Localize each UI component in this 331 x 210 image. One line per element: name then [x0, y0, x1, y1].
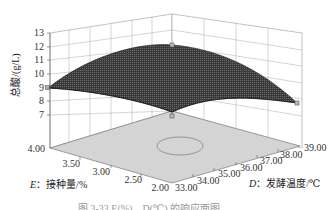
- z-tick: 9: [39, 82, 44, 93]
- z-axis-title: 总酸/(g/L): [9, 53, 22, 96]
- z-tick: 11: [34, 54, 44, 65]
- response-surface-chart: 13 12 11 10 9 8 7 总酸/(g/L) 4.00 3.50 3.0…: [0, 0, 331, 210]
- z-tick: 8: [39, 95, 44, 106]
- e-axis-title: E：接种量/%: [29, 178, 87, 190]
- d-tick: 39.00: [304, 142, 327, 153]
- e-tick: 2.50: [125, 174, 143, 185]
- z-tick: 13: [34, 27, 44, 38]
- d-tick: 33.00: [175, 182, 198, 193]
- z-tick: 7: [39, 109, 44, 120]
- e-tick: 2.00: [152, 182, 170, 193]
- e-tick: 3.00: [93, 166, 111, 177]
- z-axis: 13 12 11 10 9 8 7 总酸/(g/L): [9, 27, 50, 148]
- e-tick: 3.50: [63, 158, 81, 169]
- d-tick: 38.00: [280, 149, 303, 160]
- z-tick: 10: [34, 68, 44, 79]
- d-tick: 35.00: [218, 168, 241, 179]
- e-tick: 4.00: [28, 143, 46, 154]
- d-tick: 34.00: [197, 175, 220, 186]
- figure-caption: 图 3-33 E(%)、D(℃) 的响应面图: [78, 202, 220, 210]
- d-axis-title: D：发酵温度/℃: [248, 177, 320, 189]
- z-tick: 12: [34, 41, 44, 52]
